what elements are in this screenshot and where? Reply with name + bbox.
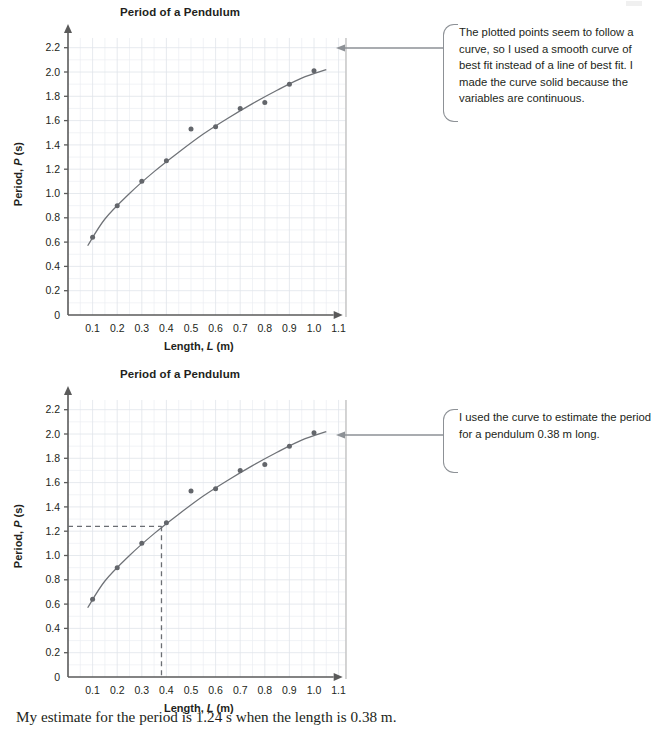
y-tick-label: 2.0 — [45, 428, 60, 440]
y-tick-label: 0 — [54, 309, 60, 321]
y-tick-label: 1.4 — [45, 139, 60, 151]
y-tick-label: 0 — [54, 671, 60, 683]
data-point — [262, 462, 267, 467]
y-tick-label: 1.2 — [45, 163, 60, 175]
data-point — [312, 430, 317, 435]
data-point — [139, 541, 144, 546]
y-tick-label: 0.6 — [45, 236, 60, 248]
y-tick-label: 1.2 — [45, 525, 60, 537]
x-tick-label: 0.5 — [184, 322, 199, 334]
data-point — [213, 124, 218, 129]
y-axis-arrow-icon — [64, 24, 72, 33]
page-edge-artifact — [626, 1, 642, 6]
x-tick-label: 0.1 — [85, 684, 100, 696]
data-point — [189, 127, 194, 132]
x-tick-label: 0.9 — [282, 684, 297, 696]
callout-annotation-curve-fit: The plotted points seem to follow a curv… — [443, 24, 657, 120]
x-tick-label: 0.2 — [110, 684, 125, 696]
grid-minor-lines — [68, 38, 346, 315]
y-tick-label: 1.0 — [45, 549, 60, 561]
y-tick-label: 0.6 — [45, 598, 60, 610]
x-tick-label: 0.5 — [184, 684, 199, 696]
x-axis-arrow-icon — [334, 673, 343, 681]
y-tick-label: 2.2 — [45, 403, 60, 415]
callout-annotation-estimate: I used the curve to estimate the period … — [443, 409, 657, 471]
x-tick-label: 1.1 — [331, 684, 346, 696]
data-point — [238, 468, 243, 473]
x-tick-label: 0.9 — [282, 322, 297, 334]
y-axis-title: Period, P (s) — [12, 504, 24, 569]
x-tick-label: 0.7 — [233, 684, 248, 696]
callout-text: The plotted points seem to follow a curv… — [459, 24, 655, 107]
y-axis-title: Period, P (s) — [12, 142, 24, 207]
data-point — [213, 486, 218, 491]
data-point — [164, 520, 169, 525]
data-point — [115, 203, 120, 208]
data-point — [90, 597, 95, 602]
y-tick-label: 1.0 — [45, 187, 60, 199]
data-point — [90, 235, 95, 240]
data-point — [287, 82, 292, 87]
x-tick-label: 0.2 — [110, 322, 125, 334]
callout-text: I used the curve to estimate the period … — [459, 409, 655, 442]
x-tick-label: 0.8 — [257, 684, 272, 696]
x-tick-label: 0.7 — [233, 322, 248, 334]
data-point — [189, 489, 194, 494]
y-tick-label: 1.6 — [45, 114, 60, 126]
x-tick-label: 1.0 — [307, 684, 322, 696]
y-tick-label: 0.2 — [45, 646, 60, 658]
pendulum-scatter-chart-2: 00.20.40.60.81.01.21.41.61.82.02.20.10.2… — [0, 362, 360, 722]
x-tick-label: 1.1 — [331, 322, 346, 334]
y-tick-label: 1.6 — [45, 476, 60, 488]
pendulum-scatter-chart-1: 00.20.40.60.81.01.21.41.61.82.02.20.10.2… — [0, 0, 360, 360]
data-point — [115, 565, 120, 570]
x-tick-label: 0.4 — [159, 322, 174, 334]
x-axis-ticks: 0.10.20.30.40.50.60.70.80.91.01.1 — [85, 684, 346, 696]
estimate-dashed-lines — [68, 526, 161, 677]
data-point — [287, 444, 292, 449]
callout-bracket — [443, 24, 458, 122]
callout-bracket — [443, 409, 458, 473]
data-point — [312, 68, 317, 73]
y-tick-label: 2.0 — [45, 66, 60, 78]
y-tick-label: 2.2 — [45, 41, 60, 53]
x-tick-label: 0.1 — [85, 322, 100, 334]
x-axis-title: Length, L (m) — [164, 340, 234, 352]
x-tick-label: 0.8 — [257, 322, 272, 334]
data-point — [262, 100, 267, 105]
data-point — [164, 158, 169, 163]
x-tick-label: 0.4 — [159, 684, 174, 696]
y-tick-label: 1.8 — [45, 90, 60, 102]
y-tick-label: 0.4 — [45, 622, 60, 634]
grid-major-lines — [68, 400, 346, 677]
data-point — [139, 179, 144, 184]
y-tick-label: 1.8 — [45, 452, 60, 464]
grid-minor-lines — [68, 400, 346, 677]
x-tick-label: 1.0 — [307, 322, 322, 334]
x-tick-label: 0.3 — [134, 684, 149, 696]
x-axis-ticks: 0.10.20.30.40.50.60.70.80.91.01.1 — [85, 322, 346, 334]
y-tick-label: 0.4 — [45, 260, 60, 272]
y-axis-ticks: 00.20.40.60.81.01.21.41.61.82.02.2 — [45, 41, 68, 320]
grid-major-lines — [68, 38, 346, 315]
y-tick-label: 0.2 — [45, 284, 60, 296]
footnote-estimate-text: My estimate for the period is 1.24 s whe… — [16, 706, 436, 727]
data-point — [238, 106, 243, 111]
y-axis-arrow-icon — [64, 386, 72, 395]
x-tick-label: 0.6 — [208, 684, 223, 696]
x-axis-arrow-icon — [334, 311, 343, 319]
y-tick-label: 0.8 — [45, 573, 60, 585]
callout-arrow-icon-1 — [336, 42, 444, 54]
y-tick-label: 1.4 — [45, 501, 60, 513]
y-tick-label: 0.8 — [45, 211, 60, 223]
y-axis-ticks: 00.20.40.60.81.01.21.41.61.82.02.2 — [45, 403, 68, 682]
callout-arrow-icon-2 — [336, 429, 444, 441]
x-tick-label: 0.6 — [208, 322, 223, 334]
x-tick-label: 0.3 — [134, 322, 149, 334]
